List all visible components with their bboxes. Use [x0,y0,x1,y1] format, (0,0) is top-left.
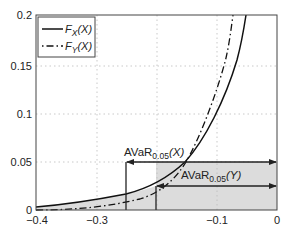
legend: FX(X) FY(X) [38,17,95,57]
y-axis: 0 0.05 0.1 0.15 0.2 [11,9,32,216]
svg-text:0.1: 0.1 [17,108,32,120]
svg-text:0.2: 0.2 [17,9,32,21]
svg-text:−0.1: −0.1 [206,214,228,226]
avar-x-label: AVaR0.05(X) [124,146,184,161]
cdf-chart: AVaR0.05(X) AVaR0.05(Y) 0 0.05 0.1 0.15 … [0,0,292,235]
svg-text:0.05: 0.05 [11,156,32,168]
x-axis: −0.4 −0.3 −0.1 0 [26,214,280,226]
svg-text:−0.3: −0.3 [86,214,108,226]
svg-text:0.15: 0.15 [11,60,32,72]
svg-text:−0.4: −0.4 [26,214,48,226]
svg-text:0: 0 [274,214,280,226]
